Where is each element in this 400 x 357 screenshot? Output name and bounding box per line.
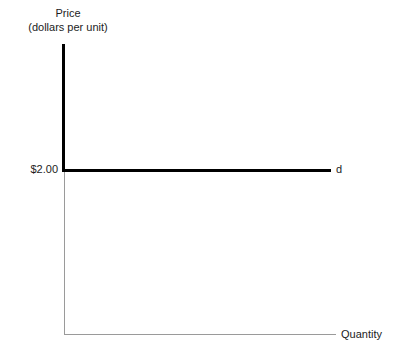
x-axis-title: Quantity	[341, 328, 382, 340]
demand-curve-vertical-segment	[62, 44, 65, 172]
y-axis-title-line2: (dollars per unit)	[0, 20, 136, 34]
y-axis-title-line1: Price	[55, 7, 80, 19]
x-axis-line	[64, 334, 336, 335]
demand-curve-horizontal-segment	[62, 169, 331, 172]
demand-curve-label: d	[336, 163, 342, 175]
y-axis-tick-label-price: $2.00	[0, 163, 58, 175]
y-axis-title: Price (dollars per unit)	[0, 6, 136, 34]
demand-curve-chart: Price (dollars per unit) $2.00 d Quantit…	[0, 0, 400, 357]
